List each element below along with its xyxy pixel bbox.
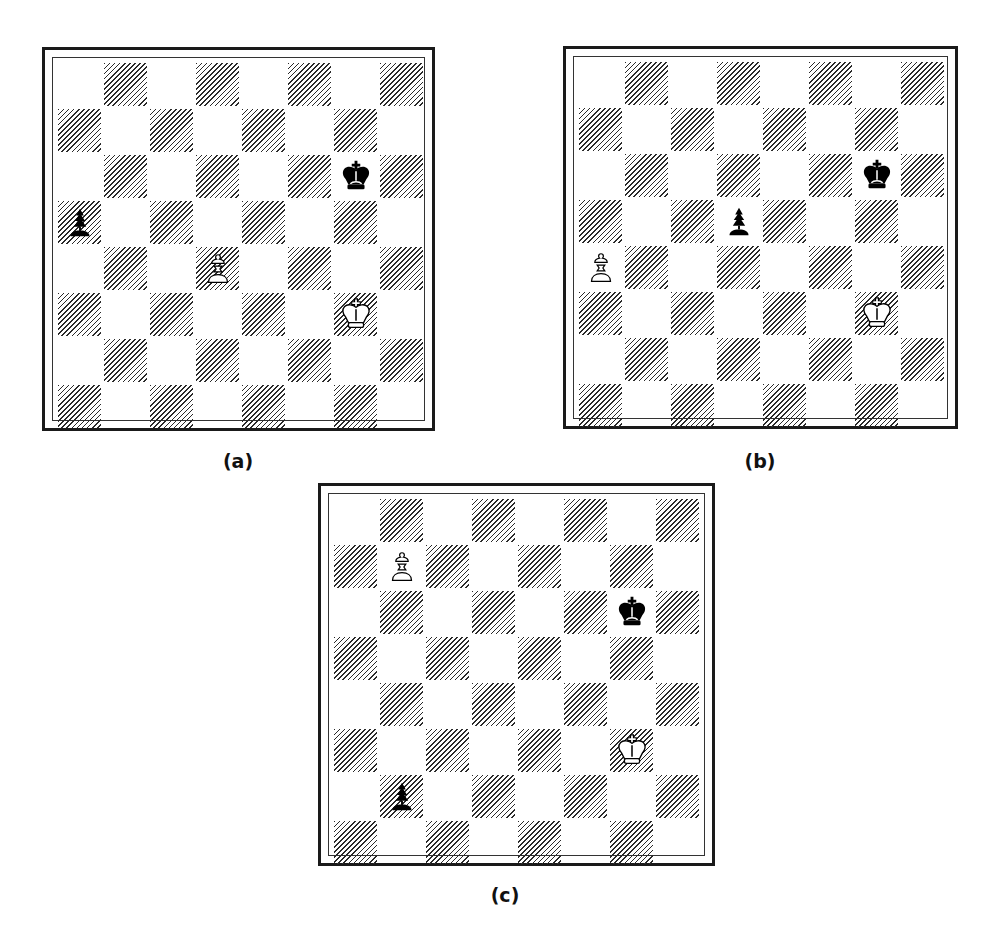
square-h4 <box>379 246 425 292</box>
square-c8 <box>149 62 195 108</box>
square-c6 <box>149 154 195 200</box>
board-c-grid <box>333 498 701 866</box>
square-f5 <box>808 199 854 245</box>
square-h2 <box>900 337 946 383</box>
square-e7 <box>241 108 287 154</box>
square-b3 <box>379 728 425 774</box>
square-b1 <box>103 384 149 430</box>
square-b4 <box>379 682 425 728</box>
square-b8 <box>103 62 149 108</box>
square-c5 <box>425 636 471 682</box>
square-e1 <box>517 820 563 866</box>
square-d7 <box>195 108 241 154</box>
square-f2 <box>808 337 854 383</box>
square-g5 <box>333 200 379 246</box>
black-king-icon <box>854 153 900 199</box>
square-h6 <box>900 153 946 199</box>
square-c3 <box>425 728 471 774</box>
square-e2 <box>762 337 808 383</box>
square-e5 <box>517 636 563 682</box>
square-g6 <box>609 590 655 636</box>
square-a2 <box>333 774 379 820</box>
square-d1 <box>716 383 762 429</box>
square-h3 <box>900 291 946 337</box>
square-g1 <box>333 384 379 430</box>
square-c7 <box>149 108 195 154</box>
square-b4 <box>103 246 149 292</box>
square-b2 <box>379 774 425 820</box>
square-f7 <box>287 108 333 154</box>
square-f4 <box>563 682 609 728</box>
square-a2 <box>578 337 624 383</box>
square-c6 <box>425 590 471 636</box>
square-f4 <box>287 246 333 292</box>
square-h8 <box>900 61 946 107</box>
square-c3 <box>149 292 195 338</box>
square-g6 <box>333 154 379 200</box>
white-king-icon <box>333 292 379 338</box>
square-c2 <box>425 774 471 820</box>
white-pawn-icon <box>195 246 241 292</box>
square-e1 <box>762 383 808 429</box>
square-h4 <box>900 245 946 291</box>
square-c4 <box>425 682 471 728</box>
square-d2 <box>471 774 517 820</box>
square-g7 <box>609 544 655 590</box>
black-pawn-icon <box>716 199 762 245</box>
square-c4 <box>149 246 195 292</box>
square-d5 <box>195 200 241 246</box>
square-b2 <box>103 338 149 384</box>
square-b3 <box>624 291 670 337</box>
square-a7 <box>578 107 624 153</box>
square-d5 <box>471 636 517 682</box>
square-d3 <box>471 728 517 774</box>
square-d4 <box>471 682 517 728</box>
square-d7 <box>471 544 517 590</box>
square-h6 <box>655 590 701 636</box>
square-b5 <box>103 200 149 246</box>
square-a3 <box>333 728 379 774</box>
square-f1 <box>563 820 609 866</box>
square-c4 <box>670 245 716 291</box>
white-king-icon <box>854 291 900 337</box>
square-g4 <box>854 245 900 291</box>
board-b-inner-frame <box>573 56 948 419</box>
square-c3 <box>670 291 716 337</box>
square-e3 <box>762 291 808 337</box>
square-a4 <box>57 246 103 292</box>
square-h6 <box>379 154 425 200</box>
square-h5 <box>900 199 946 245</box>
square-c2 <box>149 338 195 384</box>
square-g2 <box>854 337 900 383</box>
square-c7 <box>425 544 471 590</box>
square-h5 <box>655 636 701 682</box>
square-d6 <box>716 153 762 199</box>
board-a-inner-frame <box>52 57 425 421</box>
square-d7 <box>716 107 762 153</box>
square-c8 <box>425 498 471 544</box>
square-h1 <box>379 384 425 430</box>
square-b5 <box>624 199 670 245</box>
square-b7 <box>624 107 670 153</box>
square-a7 <box>333 544 379 590</box>
square-a6 <box>578 153 624 199</box>
square-c8 <box>670 61 716 107</box>
square-d8 <box>195 62 241 108</box>
square-g5 <box>609 636 655 682</box>
square-h2 <box>655 774 701 820</box>
square-h3 <box>655 728 701 774</box>
square-d6 <box>471 590 517 636</box>
square-h8 <box>379 62 425 108</box>
square-h2 <box>379 338 425 384</box>
square-a5 <box>578 199 624 245</box>
square-d8 <box>716 61 762 107</box>
square-g8 <box>854 61 900 107</box>
square-d6 <box>195 154 241 200</box>
square-d4 <box>716 245 762 291</box>
square-b1 <box>379 820 425 866</box>
square-h4 <box>655 682 701 728</box>
caption-b: (b) <box>745 450 776 472</box>
square-f3 <box>808 291 854 337</box>
black-king-icon <box>333 154 379 200</box>
square-g4 <box>333 246 379 292</box>
